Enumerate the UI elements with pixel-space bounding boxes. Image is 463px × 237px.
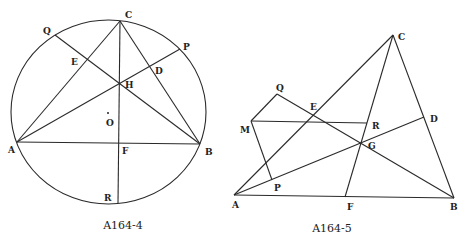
diagram-canvas: C Q P E D H O A F B R A164-4 C Q E D M R… (0, 0, 463, 237)
label-D: D (430, 114, 438, 124)
label-C: C (125, 10, 132, 20)
segment-QM (251, 94, 277, 121)
label-C: C (398, 32, 405, 42)
segment-AP (17, 49, 180, 142)
label-D: D (155, 66, 163, 76)
label-R: R (372, 121, 380, 131)
segment-AB (234, 195, 454, 198)
segment-MP (251, 121, 272, 180)
segment-AB (17, 142, 200, 144)
label-Q: Q (43, 26, 51, 36)
label-R: R (104, 193, 112, 203)
label-O: O (106, 118, 114, 128)
label-F: F (122, 146, 129, 156)
label-A: A (7, 145, 16, 155)
figure-a164-4: C Q P E D H O A F B R A164-4 (7, 10, 213, 232)
label-A: A (231, 200, 240, 210)
segment-AC (17, 21, 120, 142)
label-E: E (310, 102, 317, 112)
label-M: M (240, 125, 250, 135)
segment-MR (251, 121, 367, 123)
label-P: P (183, 42, 190, 52)
caption-a164-5: A164-5 (311, 222, 352, 235)
segment-CR (118, 21, 120, 203)
label-E: E (71, 57, 78, 67)
label-H: H (125, 80, 134, 90)
point-O (107, 112, 109, 114)
label-Q: Q (276, 83, 284, 93)
caption-a164-4: A164-4 (102, 219, 143, 232)
circumcircle (11, 20, 206, 204)
label-B: B (450, 202, 458, 212)
segment-AD (234, 117, 424, 195)
segment-BC (393, 35, 454, 198)
label-F: F (347, 202, 354, 212)
label-G: G (368, 141, 376, 151)
label-P: P (274, 183, 281, 193)
figure-a164-5: C Q E D M R G P A F B A164-5 (231, 32, 458, 235)
label-B: B (205, 147, 213, 157)
segment-BQ (277, 94, 454, 198)
